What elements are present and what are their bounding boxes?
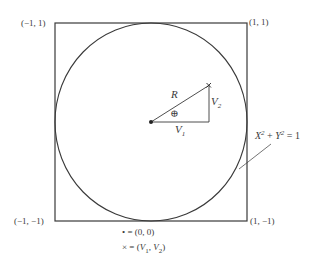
corner-label-bottom-right: (1, −1) bbox=[250, 217, 275, 226]
v1-label: V1 bbox=[175, 124, 185, 138]
legend-dot-text: = (0, 0) bbox=[125, 227, 154, 237]
legend-cross-post: ) bbox=[162, 242, 165, 252]
v1-subscript: 1 bbox=[182, 130, 186, 138]
legend-origin: • = (0, 0) bbox=[122, 228, 154, 237]
v2-subscript: 2 bbox=[218, 102, 222, 110]
v2-letter: V bbox=[211, 95, 218, 107]
legend-point: × = (V1, V2) bbox=[122, 243, 165, 255]
v1-letter: V bbox=[175, 123, 182, 135]
eq-rest: = 1 bbox=[284, 130, 300, 141]
corner-label-top-right: (1, 1) bbox=[249, 18, 269, 27]
corner-label-top-left: (−1, 1) bbox=[21, 19, 46, 28]
legend-cross-pre: = ( bbox=[127, 242, 140, 252]
eq-plus: + bbox=[265, 130, 276, 141]
hypotenuse-label: R bbox=[171, 89, 178, 100]
corner-label-bottom-left: (−1, −1) bbox=[14, 217, 44, 226]
radius-line bbox=[151, 86, 208, 122]
v2-label: V2 bbox=[211, 96, 221, 110]
circle-equation-label: X2 + Y2 = 1 bbox=[255, 130, 300, 141]
theta-angle-label: ⊕ bbox=[170, 109, 178, 119]
origin-dot bbox=[149, 120, 153, 124]
